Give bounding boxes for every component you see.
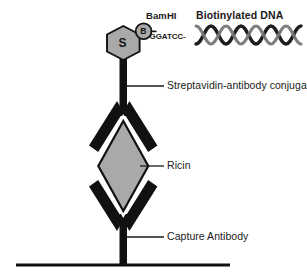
restriction-sequence-label: -GGATCC- bbox=[147, 33, 186, 41]
biotinylated-dna-label: Biotinylated DNA bbox=[196, 10, 283, 21]
capture-antibody-label: Capture Antibody bbox=[167, 231, 248, 242]
streptavidin-glyph: S bbox=[119, 37, 127, 49]
ricin-immunoassay-diagram: S B BamHI Biotinylated DNA -GGATCC- Stre… bbox=[0, 0, 307, 278]
bamhi-label: BamHI bbox=[146, 11, 177, 21]
biotinylated-dna-helix bbox=[196, 26, 301, 44]
conjugate-label: Streptavidin-antibody conjugate bbox=[167, 80, 307, 91]
diagram-canvas bbox=[0, 0, 307, 278]
ricin-label: Ricin bbox=[167, 160, 191, 171]
biotin-glyph: B bbox=[140, 27, 146, 36]
